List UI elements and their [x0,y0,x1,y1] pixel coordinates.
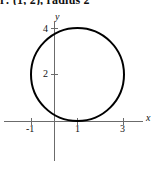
x-tick-label-3: 3 [120,124,125,134]
y-axis-label: y [55,12,59,22]
x-tick-label-neg1: -1 [26,124,34,134]
y-tick-label-4: 4 [43,24,48,34]
y-tick-label-2: 2 [43,69,48,79]
coordinate-plane [0,0,159,170]
figure-circle-plot: r: (1, 2), radius 2 -1 1 3 2 4 x y [0,0,159,170]
x-axis-label: x [146,113,150,123]
x-tick-label-1: 1 [75,124,80,134]
